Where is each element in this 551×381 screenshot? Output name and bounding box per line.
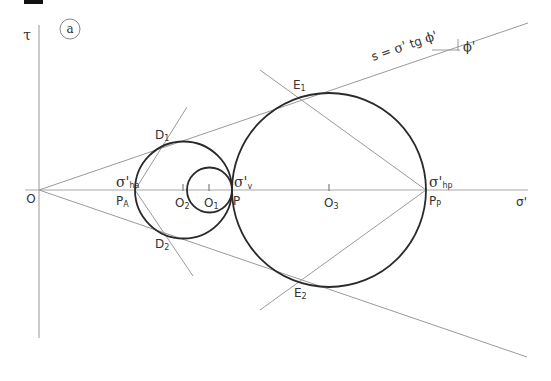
- corner-marker: [24, 0, 43, 4]
- label-sigma-ha: σ'ha: [116, 174, 139, 190]
- svg-text:s = σ' tg ϕ': s = σ' tg ϕ': [369, 28, 439, 64]
- label-pp: PP: [429, 194, 441, 209]
- lower-envelope-line: [39, 190, 527, 357]
- upper-envelope-line: [39, 23, 528, 190]
- pp-e2-line: [260, 190, 426, 310]
- stress-labels: σ'ha σ'v σ'hp: [116, 174, 453, 191]
- panel-label: a: [60, 19, 80, 39]
- sigma-axis-label: σ': [516, 195, 527, 209]
- pa-d1-line: [135, 107, 187, 190]
- label-d2: D2: [155, 237, 169, 252]
- label-e1: E1: [293, 78, 306, 93]
- label-d1: D1: [155, 128, 169, 143]
- pp-e1-line: [260, 70, 426, 190]
- label-o2: O2: [175, 196, 190, 211]
- label-o3: O3: [324, 196, 339, 211]
- mohr-circle-diagram: a τ σ' O ϕ' s = σ' tg ϕ': [0, 0, 551, 381]
- tau-axis-label: τ: [23, 27, 31, 43]
- label-sigma-hp: σ'hp: [429, 174, 453, 190]
- label-p: P: [233, 194, 240, 208]
- label-pa: PA: [116, 194, 129, 209]
- envelope-equation: s = σ' tg ϕ': [369, 28, 439, 64]
- panel-label-text: a: [66, 22, 73, 36]
- label-sigma-v: σ'v: [234, 174, 252, 191]
- label-o1: O1: [204, 196, 219, 211]
- phi-angle-label: ϕ': [463, 39, 475, 54]
- label-e2: E2: [294, 286, 307, 301]
- origin-label: O: [26, 192, 35, 206]
